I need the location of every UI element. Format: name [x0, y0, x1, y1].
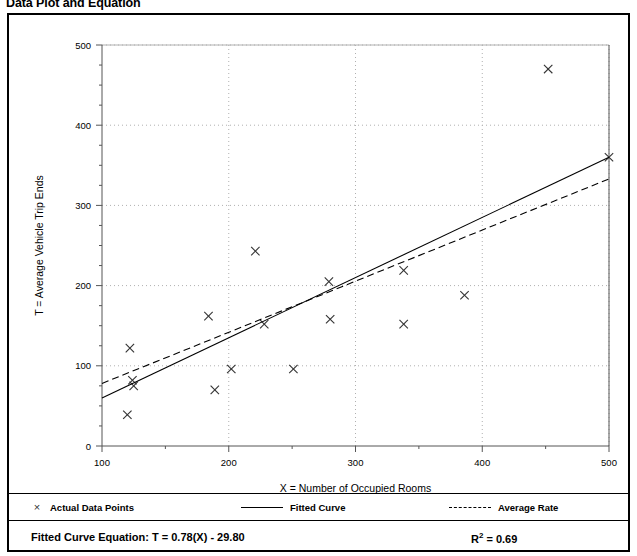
x-axis-tick-label: 200	[221, 457, 237, 468]
data-point-marker	[211, 386, 219, 394]
data-point-marker	[123, 411, 131, 419]
r-squared-number: = 0.69	[483, 533, 517, 545]
y-axis-tick-label: 100	[75, 360, 91, 371]
x-axis-tick-label: 400	[474, 457, 490, 468]
data-point-marker	[251, 247, 259, 255]
r-squared-value: R2 = 0.69	[471, 531, 517, 545]
legend-item-average-rate: Average Rate	[449, 494, 558, 520]
x-axis-title: X = Number of Occupied Rooms	[280, 482, 431, 493]
x-marker-icon: ×	[31, 501, 43, 513]
data-point-marker	[289, 365, 297, 373]
legend-item-fitted-curve: Fitted Curve	[241, 494, 345, 520]
data-point-marker	[325, 277, 333, 285]
data-point-marker	[544, 65, 552, 73]
legend-item-actual-data-points: × Actual Data Points	[31, 494, 134, 520]
x-axis-tick-label: 500	[601, 457, 617, 468]
y-axis-tick-label: 300	[75, 200, 91, 211]
chart-plot-area: 0100200300400500100200300400500X = Numbe…	[9, 15, 628, 493]
legend-label-actual-data-points: Actual Data Points	[50, 502, 134, 513]
legend-label-fitted-curve: Fitted Curve	[290, 502, 345, 513]
chart-frame: 0100200300400500100200300400500X = Numbe…	[7, 13, 630, 552]
y-axis-tick-label: 0	[86, 441, 91, 452]
data-point-marker	[126, 344, 134, 352]
scatter-plot-svg: 0100200300400500100200300400500X = Numbe…	[9, 15, 628, 493]
data-point-marker	[399, 320, 407, 328]
dashed-line-icon	[449, 507, 491, 508]
solid-line-icon	[241, 507, 283, 508]
data-point-marker	[399, 266, 407, 274]
x-axis-tick-label: 300	[348, 457, 364, 468]
y-axis-tick-label: 200	[75, 280, 91, 291]
y-axis-tick-label: 500	[75, 40, 91, 51]
data-point-marker	[460, 291, 468, 299]
data-point-group	[123, 65, 613, 419]
data-point-marker	[326, 315, 334, 323]
page-title: Data Plot and Equation	[6, 0, 141, 10]
x-axis-tick-label: 100	[94, 457, 110, 468]
r-squared-prefix: R	[471, 533, 479, 545]
y-axis-tick-label: 400	[75, 120, 91, 131]
data-point-marker	[204, 312, 212, 320]
y-axis-title: T = Average Vehicle Trip Ends	[33, 175, 45, 316]
chart-legend: × Actual Data Points Fitted Curve Averag…	[9, 493, 628, 521]
legend-label-average-rate: Average Rate	[498, 502, 558, 513]
chart-page: Data Plot and Equation 01002003004005001…	[0, 0, 637, 556]
fitted-curve-equation: Fitted Curve Equation: T = 0.78(X) - 29.…	[31, 531, 245, 543]
equation-bar: Fitted Curve Equation: T = 0.78(X) - 29.…	[9, 521, 628, 550]
